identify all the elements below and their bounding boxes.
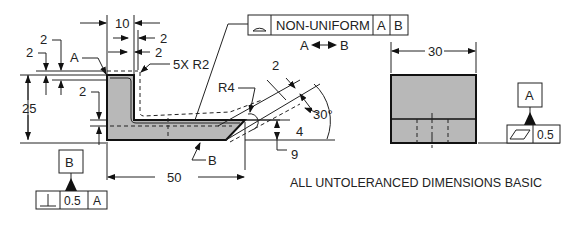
svg-text:A: A: [525, 88, 534, 103]
point-b-leader: B: [192, 143, 217, 168]
radius-note: 5X R2: [141, 57, 209, 72]
radius-4: R4: [218, 80, 255, 112]
svg-text:2: 2: [272, 58, 279, 73]
svg-text:2: 2: [155, 45, 162, 60]
datum-a-feature: A 0.5: [507, 83, 560, 143]
general-note: ALL UNTOLERANCED DIMENSIONS BASIC: [290, 176, 542, 190]
svg-text:B: B: [65, 155, 74, 170]
svg-text:2: 2: [79, 84, 86, 99]
svg-text:2: 2: [40, 32, 47, 47]
svg-text:30°: 30°: [313, 107, 333, 122]
svg-text:B: B: [340, 38, 349, 53]
fcf-profile: NON-UNIFORM A B: [248, 15, 408, 35]
datum-b-feature: B 0.5 A: [36, 150, 107, 209]
svg-text:R4: R4: [218, 80, 235, 95]
between-symbol: A B: [300, 38, 349, 53]
svg-text:10: 10: [115, 16, 129, 31]
svg-text:5X R2: 5X R2: [173, 57, 209, 72]
svg-text:A: A: [70, 50, 79, 65]
svg-text:50: 50: [167, 170, 181, 185]
svg-text:NON-UNIFORM: NON-UNIFORM: [276, 18, 370, 33]
svg-text:A: A: [300, 38, 309, 53]
svg-text:2: 2: [160, 31, 167, 46]
svg-text:B: B: [394, 18, 403, 33]
svg-text:B: B: [208, 153, 217, 168]
dim-length: 50: [107, 142, 244, 185]
svg-text:25: 25: [22, 101, 36, 116]
svg-text:4: 4: [296, 124, 303, 139]
svg-text:A: A: [377, 18, 386, 33]
svg-text:0.5: 0.5: [537, 128, 554, 142]
point-a-leader: A: [70, 50, 106, 74]
dim-left: 2 2 25 2: [20, 32, 106, 145]
svg-text:2: 2: [26, 45, 33, 60]
svg-text:A: A: [93, 194, 101, 208]
engineering-drawing: 10 2 2 5X R2 A 2 2 25: [0, 0, 582, 225]
svg-text:9: 9: [291, 147, 298, 162]
svg-text:0.5: 0.5: [64, 194, 81, 208]
svg-text:30: 30: [428, 44, 442, 59]
